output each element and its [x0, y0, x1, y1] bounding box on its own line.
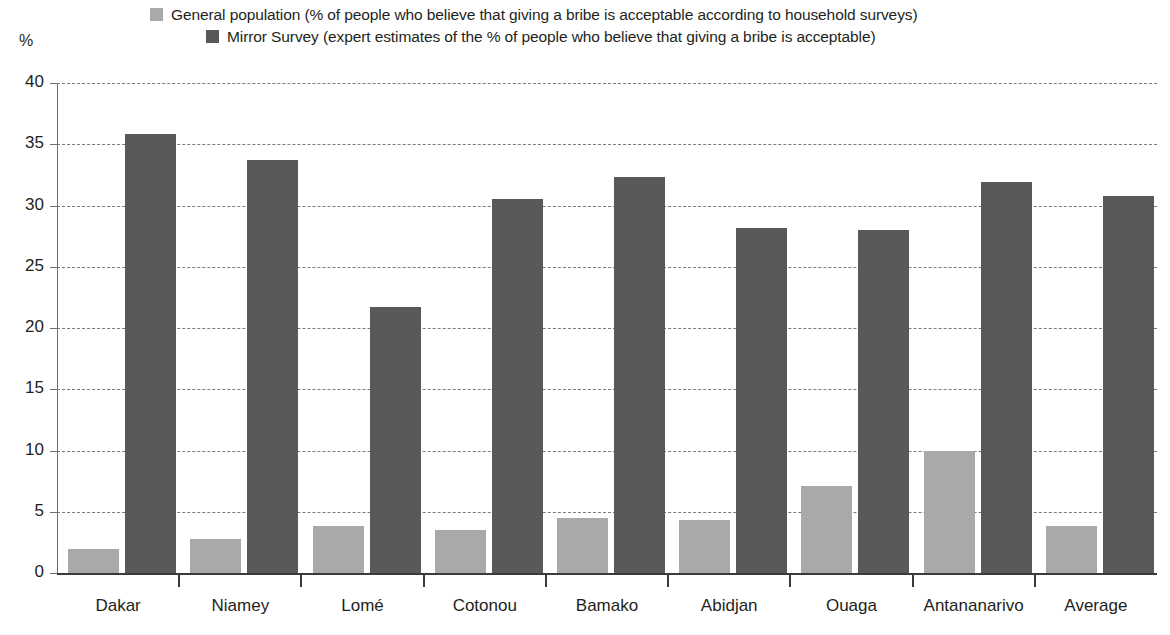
bar-group [57, 83, 179, 573]
bar-group [668, 83, 790, 573]
bar-general-population [801, 486, 852, 573]
x-axis-category-label: Lomé [301, 596, 423, 616]
y-tick-20 [50, 328, 57, 329]
bar-group [424, 83, 546, 573]
bar-general-population [679, 520, 730, 573]
x-axis-category-label: Ouaga [790, 596, 912, 616]
bar-mirror-survey [492, 199, 543, 573]
x-axis-category-label: Cotonou [424, 596, 546, 616]
bar-general-population [68, 549, 119, 574]
x-tick [1034, 573, 1036, 587]
legend-swatch-mirror-survey [206, 30, 219, 43]
chart-page: General population (% of people who beli… [0, 0, 1170, 635]
x-axis-category-label: Dakar [57, 596, 179, 616]
legend-label-general-population: General population (% of people who beli… [171, 4, 918, 26]
x-tick [667, 573, 669, 587]
bar-mirror-survey [614, 177, 665, 573]
x-tick [912, 573, 914, 587]
bar-mirror-survey [981, 182, 1032, 573]
legend-entry-general-population: General population (% of people who beli… [150, 4, 1160, 26]
x-axis-category-label: Average [1035, 596, 1157, 616]
x-axis-category-label: Niamey [179, 596, 301, 616]
bar-mirror-survey [125, 134, 176, 573]
y-tick-0 [50, 573, 57, 574]
x-tick [300, 573, 302, 587]
bar-group [301, 83, 423, 573]
y-tick-30 [50, 206, 57, 207]
bars-layer [57, 83, 1157, 573]
x-axis-category-label: Antananarivo [913, 596, 1035, 616]
bar-general-population [1046, 526, 1097, 573]
bar-general-population [435, 530, 486, 573]
bar-group [913, 83, 1035, 573]
legend-swatch-general-population [150, 8, 163, 21]
x-axis-category-label: Bamako [546, 596, 668, 616]
legend-label-mirror-survey: Mirror Survey (expert estimates of the %… [227, 26, 876, 48]
bar-group [179, 83, 301, 573]
y-axis-tick-label: 25 [0, 256, 44, 276]
bar-general-population [190, 539, 241, 573]
bar-mirror-survey [370, 307, 421, 573]
y-axis-tick-label: 20 [0, 317, 44, 337]
y-tick-25 [50, 267, 57, 268]
bar-group [790, 83, 912, 573]
y-axis-tick-label: 5 [0, 501, 44, 521]
x-tick [178, 573, 180, 587]
bar-mirror-survey [247, 160, 298, 573]
y-axis-tick-label: 15 [0, 378, 44, 398]
bar-mirror-survey [1103, 196, 1154, 573]
y-axis-tick-label: 10 [0, 440, 44, 460]
y-axis-tick-label: 30 [0, 195, 44, 215]
y-tick-35 [50, 144, 57, 145]
x-axis-line [57, 573, 1157, 575]
y-tick-10 [50, 451, 57, 452]
bar-group [1035, 83, 1157, 573]
y-axis-tick-label: 35 [0, 133, 44, 153]
x-axis-category-label: Abidjan [668, 596, 790, 616]
y-tick-5 [50, 512, 57, 513]
x-tick [423, 573, 425, 587]
y-axis-unit-label: % [19, 32, 33, 50]
bar-general-population [313, 526, 364, 573]
bar-general-population [557, 518, 608, 573]
x-tick [789, 573, 791, 587]
plot-area [57, 83, 1157, 573]
y-axis-tick-label: 0 [0, 562, 44, 582]
legend-entry-mirror-survey: Mirror Survey (expert estimates of the %… [150, 26, 1160, 48]
bar-mirror-survey [736, 228, 787, 573]
y-axis-tick-label: 40 [0, 72, 44, 92]
y-tick-15 [50, 389, 57, 390]
x-tick [545, 573, 547, 587]
y-tick-40 [50, 83, 57, 84]
bar-group [546, 83, 668, 573]
chart-legend: General population (% of people who beli… [150, 4, 1160, 48]
bar-general-population [924, 451, 975, 574]
bar-mirror-survey [858, 230, 909, 573]
